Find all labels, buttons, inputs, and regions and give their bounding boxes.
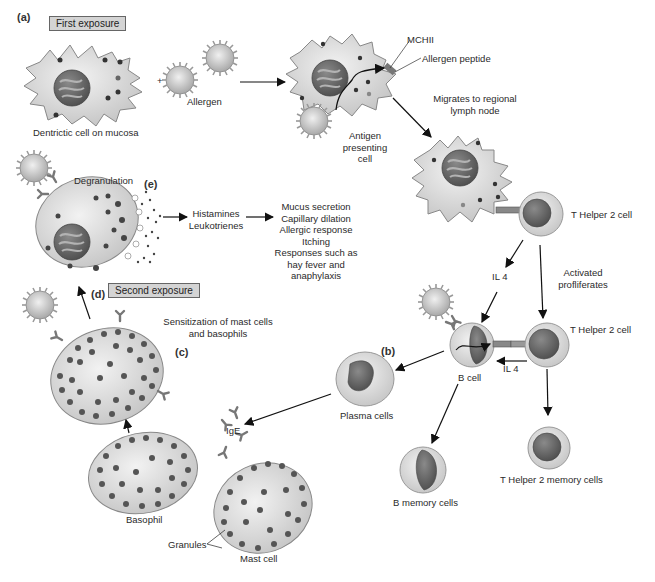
basophil-illustration <box>81 422 205 523</box>
allergen-second-exposure <box>22 287 58 323</box>
effects-label: Mucus secretion Capillary dilation Aller… <box>268 201 364 282</box>
panel-label-d: (d) <box>91 288 105 300</box>
dendritic-cell-illustration <box>24 45 142 126</box>
panel-label-b: (b) <box>381 345 395 357</box>
mhc-tcr-connector <box>496 207 522 213</box>
first-exposure-badge: First exposure <box>49 16 126 31</box>
activated-proliferates-label: Activated profliferates <box>550 267 616 290</box>
th2-cell-2-illustration <box>525 323 569 367</box>
panel-label-c: (c) <box>175 346 188 358</box>
dendritic-cell-label: Dentrictic cell on mucosa <box>33 127 139 139</box>
mediators-label: Histamines Leukotrienes <box>186 208 246 231</box>
second-exposure-badge: Second exposure <box>108 283 200 298</box>
mast-cell-label: Mast cell <box>240 553 277 565</box>
allergen-peptide-label: Allergen peptide <box>422 53 491 65</box>
plasma-cells-label: Plasma cells <box>340 410 393 422</box>
sensitization-label: Sensitization of mast cells and basophil… <box>158 316 278 339</box>
sensitized-mast-cell-illustration <box>38 311 175 438</box>
plasma-cell-illustration <box>336 352 394 406</box>
panel-label-a: (a) <box>17 11 30 23</box>
th2-memory-cell-illustration <box>528 427 570 469</box>
b-cell-label: B cell <box>458 372 481 384</box>
allergen-being-captured <box>296 103 332 139</box>
mchii-label: MCHII <box>407 34 434 46</box>
th2-cell-label-1: T Helper 2 cell <box>571 209 632 221</box>
antigen-presenting-cell-label: Antigen presenting cell <box>330 130 400 165</box>
antigen-presenting-cell-illustration <box>286 34 421 116</box>
ige-label: IgE <box>226 425 240 437</box>
il4-label-1: IL 4 <box>492 271 508 283</box>
b-memory-cell-illustration <box>400 447 446 493</box>
allergen-triggering-degranulation <box>16 150 52 186</box>
degranulation-label: Degranulation <box>74 175 133 187</box>
mast-cell-illustration <box>199 447 327 569</box>
allergen-particle-1 <box>162 62 198 98</box>
allergen-label: Allergen <box>187 96 222 108</box>
basophil-label: Basophil <box>126 514 162 526</box>
plus-sign: + <box>157 75 163 87</box>
th2-cell-1-illustration <box>519 192 563 236</box>
allergen-near-b-cell <box>418 284 454 320</box>
panel-label-e: (e) <box>144 178 157 190</box>
th2-cell-label-2: T Helper 2 cell <box>570 324 631 336</box>
allergen-particle-2 <box>202 40 238 76</box>
migrates-label: Migrates to regional lymph node <box>410 93 540 116</box>
allergy-pathway-diagram: (a) (b) (b) (c) (d) (e) First exposure S… <box>0 0 655 582</box>
th2-memory-cells-label: T Helper 2 memory cells <box>500 474 603 486</box>
granules-label: Granules <box>168 539 207 551</box>
il4-label-2: IL 4 <box>503 363 519 375</box>
b-cell-illustration <box>450 323 494 367</box>
b-memory-cells-label: B memory cells <box>393 497 458 509</box>
